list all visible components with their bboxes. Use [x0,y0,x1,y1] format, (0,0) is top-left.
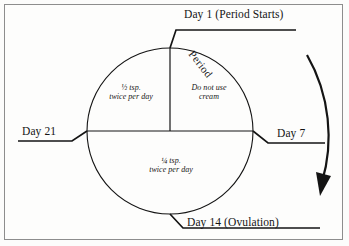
sector-label-upper-left: ½ tsp. twice per day [96,84,166,102]
sector-label-bottom-line2: twice per day [139,166,203,175]
sector-label-upper-left-line2: twice per day [96,93,166,102]
label-day-7: Day 7 [277,127,305,140]
clockwise-arrow-head [316,172,331,196]
label-day-14: Day 14 (Ovulation) [187,216,279,229]
label-day-1: Day 1 (Period Starts) [184,8,284,21]
clockwise-arrow-shaft [307,55,329,182]
label-day-21: Day 21 [22,125,56,138]
sector-label-bottom: ¼ tsp. twice per day [139,157,203,175]
cycle-diagram-artwork [0,0,349,246]
day1-leader-line [170,30,296,48]
sector-label-upper-right: Do not use cream [178,84,240,102]
diagram-page: Day 1 (Period Starts) Day 21 Day 7 Day 1… [0,0,349,246]
sector-label-upper-right-line2: cream [178,93,240,102]
